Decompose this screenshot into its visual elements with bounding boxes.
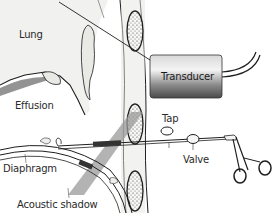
label-lung: Lung	[19, 30, 43, 40]
diaphragm-leader	[25, 154, 26, 163]
valve	[187, 135, 199, 144]
acoustic-shadow-leader	[68, 188, 69, 198]
label-valve: Valve	[183, 155, 209, 165]
lung	[0, 0, 108, 115]
pleural-tap-diagram: Lung Effusion Transducer Tap Valve Diaph…	[0, 0, 278, 213]
label-diaphragm: Diaphragm	[3, 164, 57, 174]
label-effusion: Effusion	[15, 101, 54, 111]
clamp-forceps	[224, 135, 271, 183]
tap-ring	[161, 127, 173, 135]
label-transducer: Transducer	[161, 72, 214, 82]
rib-upper	[127, 11, 143, 51]
rib-lower	[127, 171, 143, 211]
label-tap: Tap	[162, 114, 178, 124]
label-acoustic-shadow: Acoustic shadow	[17, 200, 98, 210]
ribs	[127, 11, 143, 211]
